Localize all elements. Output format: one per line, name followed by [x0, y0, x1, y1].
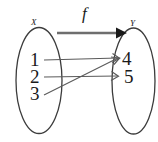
- codomain-element-5: 5: [124, 67, 134, 86]
- mapping-line-1-to-4: [44, 58, 118, 60]
- function-mapping-diagram: X Y f 1 2 3 4 5: [0, 0, 158, 142]
- function-label: f: [82, 5, 87, 22]
- codomain-set-label: Y: [130, 19, 135, 28]
- domain-element-3: 3: [30, 84, 40, 103]
- codomain-set-ellipse: [112, 28, 155, 134]
- domain-set-label: X: [31, 18, 37, 27]
